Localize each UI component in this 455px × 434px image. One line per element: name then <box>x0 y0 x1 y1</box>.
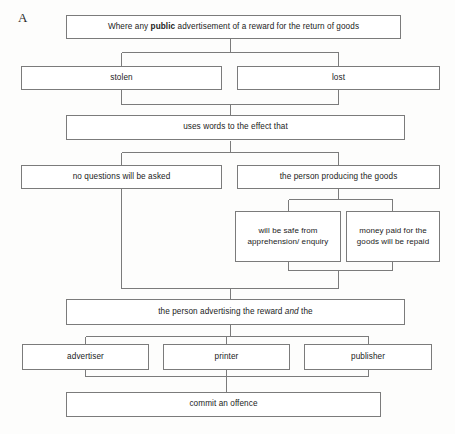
node-person-advertising-emphasis: and <box>285 307 299 316</box>
node-root-text-after: advertisement of a reward for the return… <box>175 22 359 31</box>
node-stolen: stolen <box>21 66 222 90</box>
node-no-questions: no questions will be asked <box>21 165 222 189</box>
node-person-advertising: the person advertising the reward and th… <box>66 299 405 325</box>
node-lost: lost <box>237 66 440 90</box>
node-advertiser: advertiser <box>22 344 149 370</box>
node-money-repaid: money paid for the goods will be repaid <box>346 211 440 262</box>
node-root-text-before: Where any <box>108 22 151 31</box>
flowchart-diagram: A Where any public advertisement of a re… <box>0 0 455 434</box>
node-person-producing: the person producing the goods <box>237 165 440 189</box>
node-root: Where any public advertisement of a rewa… <box>66 15 401 39</box>
diagram-label: A <box>18 10 27 26</box>
node-safe-from: will be safe from apprehension/ enquiry <box>235 211 341 262</box>
node-person-advertising-after: the <box>299 307 313 316</box>
node-root-emphasis: public <box>151 22 176 31</box>
node-printer: printer <box>163 344 290 370</box>
node-uses-words: uses words to the effect that <box>66 115 405 140</box>
node-commit-offence: commit an offence <box>66 392 381 417</box>
node-person-advertising-before: the person advertising the reward <box>158 307 285 316</box>
node-publisher: publisher <box>304 344 432 370</box>
